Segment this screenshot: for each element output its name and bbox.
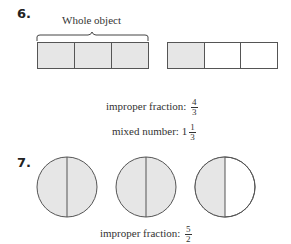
bar-cell-shaded <box>75 43 112 68</box>
denominator: 2 <box>186 235 191 244</box>
improper-label: improper fraction: <box>100 227 180 239</box>
improper-label: improper fraction: <box>106 100 186 112</box>
improper-fraction-7: improper fraction: 52 <box>100 225 192 244</box>
partial-bar <box>167 42 278 69</box>
circle-1 <box>37 157 97 217</box>
bar-cell-empty <box>241 43 277 68</box>
whole-part: 1 <box>182 125 188 137</box>
fraction: 52 <box>185 225 192 244</box>
bar-cell-shaded <box>38 43 75 68</box>
improper-fraction-6: improper fraction: 43 <box>106 98 198 117</box>
bar-cell-empty <box>205 43 242 68</box>
fraction: 43 <box>191 98 198 117</box>
mixed-number-6: mixed number: 113 <box>112 123 196 142</box>
bar-cell-shaded <box>168 43 205 68</box>
circle-2 <box>116 157 176 217</box>
denominator: 3 <box>190 133 195 142</box>
problem-7-number: 7. <box>17 155 31 170</box>
whole-object-bar <box>37 42 149 69</box>
fraction: 13 <box>189 123 196 142</box>
circle-3 <box>195 157 255 217</box>
mixed-label: mixed number: <box>112 125 179 137</box>
denominator: 3 <box>192 108 197 117</box>
brace <box>37 32 148 41</box>
bar-cell-shaded <box>112 43 148 68</box>
